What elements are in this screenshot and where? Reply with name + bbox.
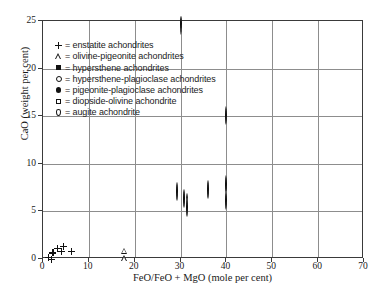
legend-label: = hypersthene achondrites (65, 63, 169, 73)
marker-circle-open-icon (207, 180, 209, 199)
gridline-horizontal (43, 211, 362, 212)
x-tick-label: 10 (83, 261, 93, 271)
y-tick-label: 10 (10, 158, 36, 168)
marker-circle-open-icon (225, 106, 227, 125)
y-tick-label: 5 (10, 205, 36, 215)
legend-symbol (52, 65, 65, 70)
x-tick-mark (363, 258, 364, 262)
data-point (225, 192, 227, 210)
marker-diamond-open-icon (56, 109, 61, 116)
y-axis-label: CaO (weight per cent) (19, 14, 30, 174)
legend-label: = pigeonite-plagioclase achondrites (65, 85, 203, 95)
legend-item: = pigeonite-plagioclase achondrites (52, 85, 216, 96)
marker-square-filled-icon (56, 65, 61, 70)
data-point (207, 181, 209, 199)
marker-circle-open-icon (176, 182, 178, 201)
marker-circle-filled-icon (56, 87, 61, 92)
gridline-vertical (226, 21, 227, 257)
legend-item: = hypersthene-plagioclase achondrites (52, 74, 216, 85)
x-tick-label: 40 (221, 261, 231, 271)
marker-circle-open-icon (56, 76, 62, 82)
legend-label: = augite achondrite (65, 107, 140, 117)
x-tick-label: 30 (175, 261, 185, 271)
y-tick-label: 20 (10, 63, 36, 73)
x-tick-mark (134, 258, 135, 262)
legend-symbol (52, 87, 65, 92)
x-tick-mark (317, 258, 318, 262)
x-tick-mark (271, 258, 272, 262)
data-point (186, 199, 188, 217)
gridline-horizontal (43, 164, 362, 165)
x-tick-label: 0 (40, 261, 45, 271)
marker-plus-icon (55, 42, 62, 49)
marker-square-open-icon (56, 99, 61, 104)
marker-triangle-open-icon (55, 53, 62, 59)
x-tick-label: 50 (267, 261, 277, 271)
y-tick-label: 25 (10, 15, 36, 25)
gridline-vertical (318, 21, 319, 257)
legend-symbol (52, 109, 65, 116)
legend-label: = enstatite achondrites (65, 40, 154, 50)
legend-symbol (52, 53, 65, 59)
x-tick-mark (180, 258, 181, 262)
legend-symbol (52, 76, 65, 82)
data-point (225, 107, 227, 125)
data-point (180, 17, 182, 35)
marker-circle-open-icon (183, 189, 185, 208)
x-tick-label: 70 (358, 261, 368, 271)
legend-item: = enstatite achondrites (52, 40, 216, 51)
y-tick-mark (38, 258, 42, 259)
y-tick-label: 15 (10, 110, 36, 120)
legend-item: = hypersthene achondrites (52, 62, 216, 73)
data-point (176, 183, 178, 201)
data-point (183, 190, 185, 208)
legend-item: = olivine-pigeonite achondrites (52, 51, 216, 62)
x-tick-mark (225, 258, 226, 262)
x-tick-mark (42, 258, 43, 262)
x-tick-label: 20 (129, 261, 139, 271)
legend-item: = diopside-olivine achondrite (52, 96, 216, 107)
legend-symbol (52, 99, 65, 104)
marker-circle-open-icon (225, 191, 227, 210)
x-tick-label: 60 (312, 261, 322, 271)
gridline-vertical (272, 21, 273, 257)
legend: = enstatite achondrites= olivine-pigeoni… (52, 40, 216, 118)
legend-label: = hypersthene-plagioclase achondrites (65, 74, 216, 84)
marker-diamond-open-icon (180, 16, 182, 35)
legend-label: = diopside-olivine achondrite (65, 96, 176, 106)
x-tick-mark (88, 258, 89, 262)
legend-symbol (52, 42, 65, 49)
legend-label: = olivine-pigeonite achondrites (65, 51, 184, 61)
scatter-chart-figure: CaO (weight per cent) FeO/FeO + MgO (mol… (0, 0, 385, 298)
legend-item: = augite achondrite (52, 107, 216, 118)
y-tick-label: 0 (10, 253, 36, 263)
marker-circle-open-icon (186, 198, 188, 217)
x-axis-label: FeO/FeO + MgO (mole per cent) (42, 272, 363, 283)
